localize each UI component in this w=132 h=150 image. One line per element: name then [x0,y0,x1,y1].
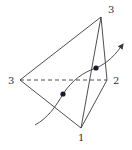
intersection-point-2 [93,65,98,70]
vertex-label-right: 2 [113,75,119,86]
edge-top-bottom [81,17,101,128]
intersection-point-1 [60,91,65,96]
edge-top-right [101,17,107,80]
vertex-label-top: 3 [108,4,114,15]
pyramid-diagram: 3 3 2 1 [0,0,132,150]
vertex-label-left: 3 [8,75,14,86]
vertex-label-bottom: 1 [78,132,84,143]
trajectory-curve [35,44,123,125]
edge-left-bottom [20,80,81,128]
